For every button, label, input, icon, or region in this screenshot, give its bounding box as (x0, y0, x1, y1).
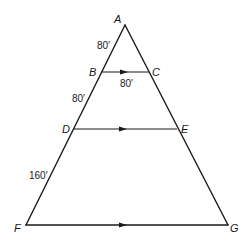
side-AF (26, 25, 125, 225)
vertex-label-F: F (14, 222, 22, 234)
vertex-label-C: C (152, 66, 160, 78)
measure-BC: 80′ (120, 78, 133, 89)
diagram-canvas: A B C D E F G 80′ 80′ 80′ 160′ (0, 0, 250, 250)
measure-BD: 80′ (72, 93, 85, 104)
parallel-arrow-icon (119, 127, 127, 132)
side-AG (125, 25, 228, 225)
parallel-arrow-icon (120, 70, 128, 75)
vertex-label-A: A (113, 13, 121, 25)
parallel-arrow-icon (119, 223, 127, 228)
measure-AB: 80′ (97, 40, 110, 51)
vertex-label-E: E (181, 123, 189, 135)
triangle-diagram: A B C D E F G 80′ 80′ 80′ 160′ (0, 0, 250, 250)
vertex-label-G: G (230, 222, 239, 234)
vertex-label-D: D (62, 123, 70, 135)
measure-DF: 160′ (29, 170, 48, 181)
vertex-label-B: B (89, 66, 96, 78)
